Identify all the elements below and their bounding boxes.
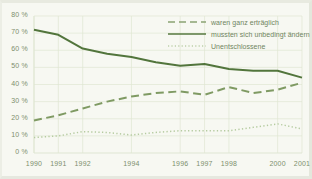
y-tick-label: 50 % — [4, 62, 28, 69]
y-tick-label: 30 % — [4, 97, 28, 104]
legend-swatch-dotted — [168, 41, 206, 51]
y-tick-label: 40 % — [4, 80, 28, 87]
y-tick-label: 80 % — [4, 11, 28, 18]
x-tick-label: 1994 — [116, 160, 146, 167]
line-chart-figure: 0 %10 %20 %30 %40 %50 %60 %70 %80 % 1990… — [0, 0, 312, 179]
x-tick-label: 1992 — [68, 160, 98, 167]
legend-item-mussten-sich-unbedingt-aendern: mussten sich unbedingt ändern — [168, 28, 308, 40]
legend-label-1: mussten sich unbedingt ändern — [211, 31, 310, 38]
legend-swatch-dashed — [168, 17, 206, 27]
y-tick-label: 70 % — [4, 28, 28, 35]
y-tick-label: 60 % — [4, 45, 28, 52]
y-tick-label: 10 % — [4, 131, 28, 138]
legend-item-unentschlossene: Unentschlossene — [168, 40, 308, 52]
x-tick-label: 2001 — [287, 160, 312, 167]
legend-label-2: Unentschlossene — [211, 43, 265, 50]
legend-item-waren-ganz-ertraeglich: waren ganz erträglich — [168, 16, 308, 28]
legend-swatch-solid — [168, 29, 206, 39]
legend-label-0: waren ganz erträglich — [211, 19, 279, 26]
chart-legend: waren ganz erträglich mussten sich unbed… — [168, 16, 308, 52]
y-tick-label: 0 % — [4, 148, 28, 155]
y-tick-label: 20 % — [4, 114, 28, 121]
x-tick-label: 1998 — [214, 160, 244, 167]
